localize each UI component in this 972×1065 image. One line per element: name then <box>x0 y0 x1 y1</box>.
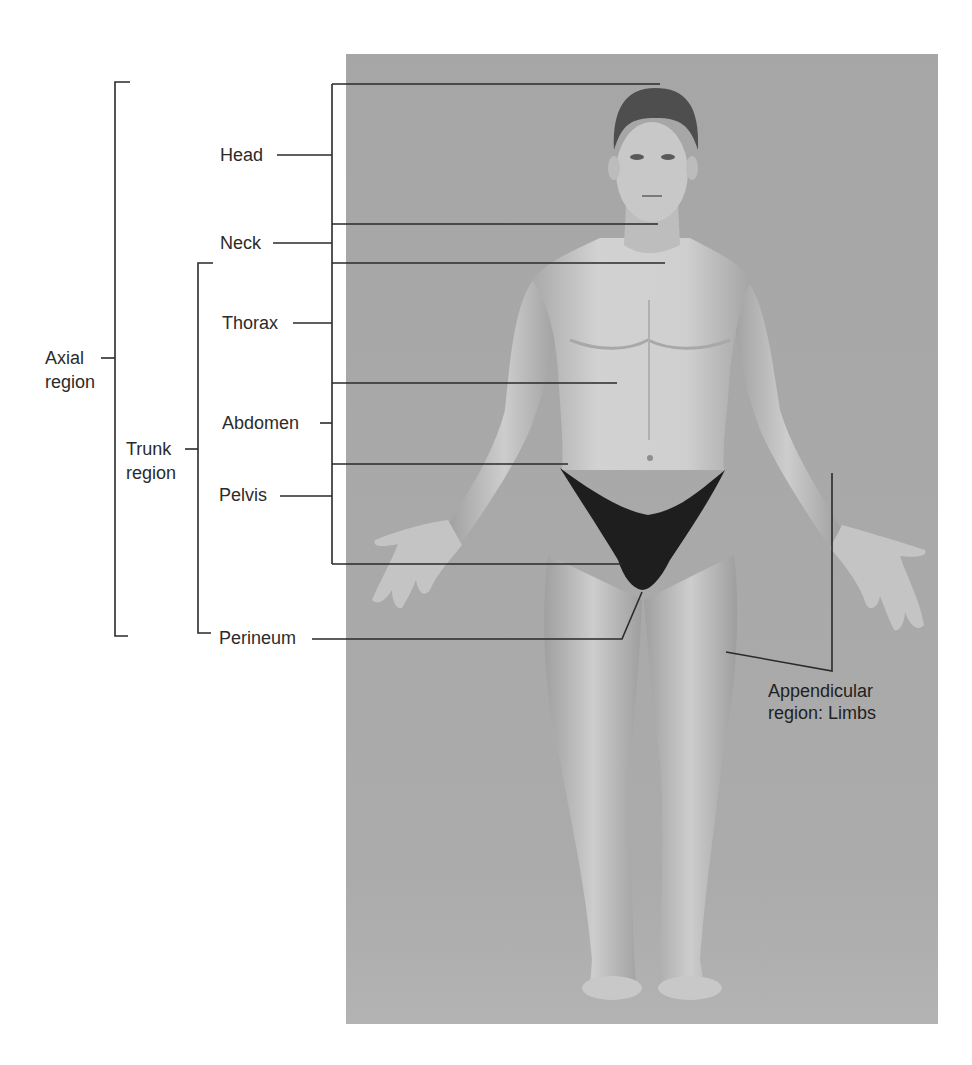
torso <box>532 238 752 470</box>
left-ear <box>608 156 620 180</box>
right-eye <box>661 154 675 160</box>
right-foot <box>658 976 722 1000</box>
right-ear <box>686 156 698 180</box>
axial-label-line1: Axial <box>45 347 95 369</box>
appendicular-label-line2: region: Limbs <box>768 702 876 724</box>
figure-canvas <box>0 0 972 1065</box>
trunk-bracket <box>198 263 213 633</box>
trunk-label-line1: Trunk <box>126 438 176 460</box>
axial-bracket <box>115 82 130 636</box>
body-regions-figure: Axial region Trunk region Head Neck Thor… <box>0 0 972 1065</box>
trunk-label-line2: region <box>126 462 176 484</box>
trunk-region-label: Trunk region <box>126 438 176 484</box>
region-label-perineum: Perineum <box>219 627 296 649</box>
region-label-pelvis: Pelvis <box>219 484 267 506</box>
region-label-abdomen: Abdomen <box>222 412 299 434</box>
left-eye <box>630 154 644 160</box>
region-label-neck: Neck <box>220 232 261 254</box>
region-label-head: Head <box>220 144 263 166</box>
appendicular-label-line1: Appendicular <box>768 680 876 702</box>
region-label-thorax: Thorax <box>222 312 278 334</box>
axial-region-label: Axial region <box>45 347 95 393</box>
navel <box>647 455 653 461</box>
appendicular-region-label: Appendicular region: Limbs <box>768 680 876 724</box>
left-foot <box>582 976 642 1000</box>
axial-label-line2: region <box>45 371 95 393</box>
head <box>616 122 688 222</box>
